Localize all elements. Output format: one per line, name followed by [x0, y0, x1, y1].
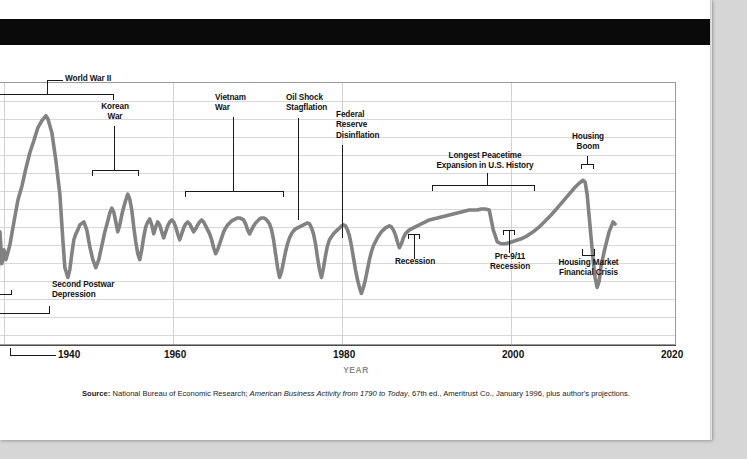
leader-depression-lower [0, 313, 50, 314]
bracket-top-world-war-ii [0, 94, 114, 95]
x-tick-2000: 2000 [502, 349, 524, 360]
x-tick-1960: 1960 [164, 349, 186, 360]
bracket-housing-crisis [582, 249, 595, 255]
leader-h-world-war-ii [47, 80, 63, 81]
x-tick-1940: 1940 [58, 349, 80, 360]
x-tick-1980: 1980 [333, 349, 355, 360]
annotation-housing-boom: Housing Boom [558, 132, 618, 153]
x-axis-line [0, 345, 676, 346]
bracket-vietnam-war [185, 191, 284, 197]
leader-depression-lower-tick [49, 306, 50, 314]
annotation-vietnam-war: Vietnam War [215, 93, 275, 114]
page-header-black-bar [0, 19, 710, 45]
leader-korean-war [114, 126, 115, 171]
source-text-1: National Bureau of Economic Research; [110, 389, 249, 398]
x-axis-1940-leader [10, 355, 56, 356]
annotation-recession: Recession [384, 257, 446, 267]
leader-oil-shock [298, 118, 299, 220]
x-axis-title: YEAR [0, 365, 712, 375]
leader-world-war-ii [47, 80, 48, 95]
source-title-italic: American Business Activity from 1790 to … [250, 389, 408, 398]
annotation-second-postwar-depression: Second Postwar Depression [52, 280, 148, 301]
leader-fed-disinflation [342, 145, 343, 238]
x-axis-1940-leader-tick [10, 348, 11, 356]
annotation-federal-reserve-disinflation: Federal Reserve Disinflation [336, 110, 412, 141]
source-text-2: , 67th ed., Ameritrust Co., January 1996… [408, 389, 630, 398]
annotation-korean-war: Korean War [79, 102, 151, 123]
source-label: Source: [82, 389, 110, 398]
source-note: Source: National Bureau of Economic Rese… [0, 389, 712, 398]
leader-housing-boom [587, 156, 588, 165]
leader-depression-upper-tick [11, 290, 12, 295]
bracket-top-housing-crisis [582, 255, 595, 256]
leader-vietnam-war [233, 117, 234, 192]
annotation-world-war-ii: World War II [65, 74, 155, 84]
page-edge-shadow [710, 0, 713, 440]
x-tick-2020: 2020 [661, 349, 683, 360]
business-activity-chart: World War II Korean War Vietnam War Oil … [0, 60, 712, 420]
annotation-housing-market-financial-crisis: Housing Market Financial Crisis [533, 258, 644, 279]
bracket-korean-war [92, 170, 139, 176]
annotation-pre-911-recession: Pre-9/11 Recession [479, 252, 541, 273]
leader-recession [414, 235, 415, 259]
leader-peacetime-expansion [487, 173, 488, 186]
document-page: World War II Korean War Vietnam War Oil … [0, 0, 712, 440]
bracket-peacetime-expansion [432, 185, 535, 191]
annotation-longest-peacetime-expansion: Longest Peacetime Expansion in U.S. Hist… [425, 151, 545, 172]
leader-pre-911 [509, 231, 510, 253]
